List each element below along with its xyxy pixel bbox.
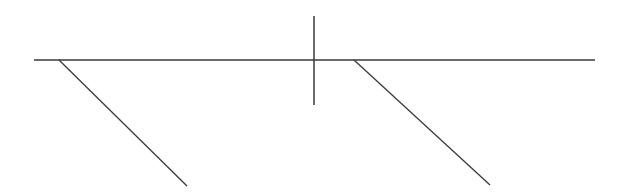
drawing-canvas: [0, 0, 620, 195]
canvas-background: [0, 0, 620, 195]
line-drawing-svg: [0, 0, 620, 195]
